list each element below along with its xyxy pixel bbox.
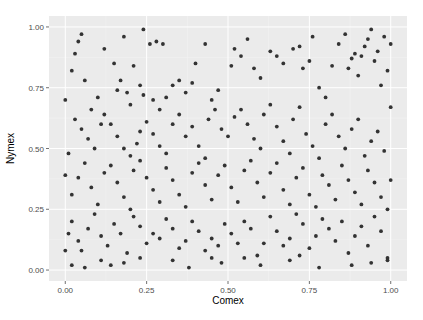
data-point: [268, 103, 272, 107]
data-point: [373, 59, 377, 63]
data-point: [164, 166, 168, 170]
data-point: [132, 64, 136, 68]
data-point: [102, 113, 106, 117]
y-tick-label: 0.00: [28, 266, 44, 275]
data-point: [67, 152, 71, 156]
data-point: [145, 120, 149, 124]
data-point: [102, 171, 106, 175]
data-point: [350, 127, 354, 131]
data-point: [151, 98, 155, 102]
data-point: [76, 176, 80, 180]
data-point: [177, 113, 181, 117]
data-point: [164, 96, 168, 100]
data-point: [93, 212, 97, 216]
data-point: [236, 200, 240, 204]
data-point: [330, 113, 334, 117]
data-point: [347, 178, 351, 182]
data-point: [184, 91, 188, 95]
data-point: [262, 113, 266, 117]
data-point: [203, 183, 207, 187]
data-point: [177, 193, 181, 197]
data-point: [360, 54, 364, 58]
data-point: [376, 130, 380, 134]
data-point: [70, 220, 74, 224]
data-point: [115, 134, 119, 138]
data-point: [321, 217, 325, 221]
data-point: [337, 42, 341, 46]
data-point: [262, 241, 266, 245]
data-point: [106, 244, 110, 248]
data-point: [99, 258, 103, 262]
data-point: [229, 64, 233, 68]
data-point: [389, 42, 393, 46]
data-point: [122, 261, 126, 265]
data-point: [369, 139, 373, 143]
data-point: [112, 222, 116, 226]
data-point: [259, 76, 263, 80]
data-point: [197, 144, 201, 148]
data-point: [177, 246, 181, 250]
data-point: [67, 232, 71, 236]
data-point: [223, 164, 227, 168]
data-point: [281, 139, 285, 143]
data-point: [242, 169, 246, 173]
data-point: [138, 130, 142, 134]
data-point: [190, 125, 194, 129]
data-point: [194, 62, 198, 66]
data-point: [291, 47, 295, 51]
data-point: [132, 215, 136, 219]
data-point: [386, 207, 390, 211]
data-point: [311, 144, 315, 148]
data-point: [262, 195, 266, 199]
data-point: [281, 62, 285, 66]
data-point: [138, 159, 142, 163]
data-point: [356, 117, 360, 121]
data-point: [246, 122, 250, 126]
data-point: [63, 98, 67, 102]
data-point: [242, 220, 246, 224]
data-point: [334, 198, 338, 202]
data-point: [291, 117, 295, 121]
data-point: [197, 229, 201, 233]
data-point: [210, 98, 214, 102]
data-point: [268, 171, 272, 175]
data-point: [161, 42, 165, 46]
data-point: [308, 246, 312, 250]
data-point: [233, 47, 237, 51]
data-point: [216, 173, 220, 177]
data-point: [242, 256, 246, 260]
data-point: [275, 161, 279, 165]
data-point: [389, 105, 393, 109]
data-point: [145, 176, 149, 180]
data-point: [255, 181, 259, 185]
data-point: [343, 32, 347, 36]
data-point: [63, 249, 67, 253]
data-point: [304, 132, 308, 136]
data-point: [210, 198, 214, 202]
data-point: [164, 152, 168, 156]
data-point: [220, 127, 224, 131]
data-point: [86, 227, 90, 231]
data-point: [177, 79, 181, 83]
data-point: [301, 66, 305, 70]
data-point: [223, 222, 227, 226]
data-point: [203, 42, 207, 46]
data-point: [80, 32, 84, 36]
data-point: [184, 205, 188, 209]
data-point: [210, 256, 214, 260]
data-point: [109, 164, 113, 168]
data-point: [190, 171, 194, 175]
data-point: [109, 122, 113, 126]
y-axis-title: Nymex: [5, 133, 16, 164]
data-point: [233, 115, 237, 119]
data-point: [164, 217, 168, 221]
data-point: [76, 239, 80, 243]
data-point: [96, 96, 100, 100]
data-point: [324, 96, 328, 100]
data-point: [102, 47, 106, 51]
data-point: [353, 190, 357, 194]
data-point: [373, 181, 377, 185]
data-point: [155, 40, 159, 44]
data-point: [70, 69, 74, 73]
data-point: [80, 249, 84, 253]
